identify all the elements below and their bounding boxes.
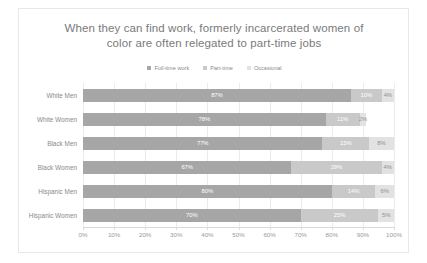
bar-segment-full-time-work[interactable]: 78% <box>83 113 326 126</box>
bar-segment-occasional[interactable]: 4% <box>382 161 394 174</box>
x-axis-tick-mark <box>176 227 177 230</box>
plot-area: White Men87%10%4%White Women78%11%2%Blac… <box>83 83 394 227</box>
bar-segment-part-time[interactable]: 14% <box>332 185 376 198</box>
x-axis-tick-mark <box>145 227 146 230</box>
legend-item-full-time-work[interactable]: Full-time work <box>147 65 189 71</box>
x-axis-tick-label: 30% <box>170 231 182 238</box>
x-axis-tick-mark <box>83 227 84 230</box>
x-axis-tick-label: 80% <box>326 231 338 238</box>
bar-segment-full-time-work[interactable]: 87% <box>83 89 351 102</box>
bar-segment-value-label: 87% <box>211 92 223 98</box>
legend-item-occasional[interactable]: Occasional <box>247 65 282 71</box>
x-axis-tick-labels: 0%10%20%30%40%50%60%70%80%90%100% <box>83 231 394 243</box>
x-axis-tick-label: 0% <box>79 231 88 238</box>
bar-segment-full-time-work[interactable]: 70% <box>83 209 301 222</box>
bar-segment-value-label: 11% <box>337 116 348 122</box>
stacked-bar: 70%25%5% <box>83 209 394 222</box>
bar-row: Black Men77%15%8% <box>83 131 394 155</box>
bar-segment-occasional[interactable]: 6% <box>375 185 394 198</box>
stacked-bar: 78%11%2% <box>83 113 394 126</box>
x-axis-tick-mark <box>301 227 302 230</box>
bar-segment-value-label: 4% <box>384 164 392 170</box>
legend-label-part-time: Part-time <box>210 65 233 71</box>
x-axis-tick-label: 10% <box>108 231 120 238</box>
category-label: Black Women <box>38 164 77 171</box>
x-axis-tick-mark <box>332 227 333 230</box>
bar-segment-full-time-work[interactable]: 80% <box>83 185 332 198</box>
bar-row: Hispanic Men80%14%6% <box>83 179 394 203</box>
bar-segment-value-label: 67% <box>181 164 193 170</box>
bar-segment-value-label: 8% <box>377 140 385 146</box>
x-axis-tick-label: 90% <box>357 231 369 238</box>
chart-title: When they can find work, formerly incarc… <box>39 21 389 51</box>
bar-segment-part-time[interactable]: 11% <box>326 113 360 126</box>
x-axis-tick-label: 70% <box>294 231 306 238</box>
category-label: White Men <box>46 92 77 99</box>
x-axis-tick-mark <box>363 227 364 230</box>
category-label: White Women <box>37 116 77 123</box>
bar-segment-value-label: 14% <box>348 188 360 194</box>
gridline <box>394 83 395 227</box>
legend-swatch-full-time-work <box>147 66 151 70</box>
x-axis-tick-label: 100% <box>386 231 402 238</box>
bar-segment-value-label: 25% <box>334 212 346 218</box>
bar-segment-value-label: 10% <box>360 92 372 98</box>
bar-segment-value-label: 77% <box>197 140 209 146</box>
bar-segment-part-time[interactable]: 10% <box>351 89 382 102</box>
legend-label-full-time-work: Full-time work <box>154 65 189 71</box>
bar-row: Hispanic Women70%25%5% <box>83 203 394 227</box>
bar-segment-occasional[interactable]: 8% <box>369 137 394 150</box>
bar-segment-full-time-work[interactable]: 77% <box>83 137 322 150</box>
bar-segment-part-time[interactable]: 25% <box>301 209 379 222</box>
bar-segment-occasional[interactable]: 4% <box>382 89 394 102</box>
bar-segment-value-label: 5% <box>382 212 390 218</box>
legend-label-occasional: Occasional <box>254 65 282 71</box>
chart-title-line-1: When they can find work, formerly incarc… <box>39 21 389 36</box>
bar-segment-value-label: 6% <box>380 188 388 194</box>
bar-segment-value-label: 80% <box>202 188 214 194</box>
bar-segment-part-time[interactable]: 29% <box>291 161 381 174</box>
chart-container: When they can find work, formerly incarc… <box>18 8 409 253</box>
x-axis-tick-mark <box>114 227 115 230</box>
stacked-bar: 80%14%6% <box>83 185 394 198</box>
legend-swatch-part-time <box>203 66 207 70</box>
bar-segment-part-time[interactable]: 15% <box>322 137 369 150</box>
bar-row: White Men87%10%4% <box>83 83 394 107</box>
bar-segment-value-label: 15% <box>340 140 352 146</box>
x-axis-tick-label: 40% <box>201 231 213 238</box>
chart-title-line-2: color are often relegated to part-time j… <box>39 36 389 51</box>
legend-item-part-time[interactable]: Part-time <box>203 65 233 71</box>
legend-swatch-occasional <box>247 66 251 70</box>
x-axis-tick-label: 50% <box>232 231 244 238</box>
category-label: Hispanic Women <box>29 212 77 219</box>
bar-segment-value-label: 78% <box>198 116 210 122</box>
category-label: Black Men <box>47 140 77 147</box>
x-axis-tick-mark <box>207 227 208 230</box>
chart-legend: Full-time work Part-time Occasional <box>19 65 410 71</box>
stacked-bar: 67%29%4% <box>83 161 394 174</box>
bar-segment-value-label: 4% <box>384 92 392 98</box>
bar-segment-full-time-work[interactable]: 67% <box>83 161 291 174</box>
x-axis-tick-label: 60% <box>263 231 275 238</box>
stacked-bar: 77%15%8% <box>83 137 394 150</box>
x-axis-tick-mark <box>270 227 271 230</box>
category-label: Hispanic Men <box>38 188 77 195</box>
x-axis-tick-mark <box>239 227 240 230</box>
x-axis-tick-label: 20% <box>139 231 151 238</box>
bar-segment-value-label: 2% <box>359 116 367 122</box>
x-axis-tick-mark <box>394 227 395 230</box>
bar-row: White Women78%11%2% <box>83 107 394 131</box>
bar-segment-value-label: 70% <box>186 212 198 218</box>
bar-segment-occasional[interactable]: 2% <box>360 113 366 126</box>
bar-segment-value-label: 29% <box>331 164 343 170</box>
stacked-bar: 87%10%4% <box>83 89 394 102</box>
bar-row: Black Women67%29%4% <box>83 155 394 179</box>
bar-segment-occasional[interactable]: 5% <box>378 209 394 222</box>
